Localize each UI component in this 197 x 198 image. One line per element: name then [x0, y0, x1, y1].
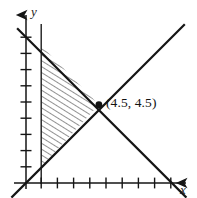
coordinate-plot — [0, 0, 197, 198]
x-axis — [14, 178, 186, 189]
y-axis-label: y — [31, 5, 37, 18]
math-graph-figure: y x (4.5, 4.5) — [0, 0, 197, 198]
intersection-point-marker — [96, 101, 103, 108]
shaded-feasible-region — [41, 45, 99, 166]
intersection-point-label: (4.5, 4.5) — [106, 96, 157, 110]
ascending-line — [11, 24, 184, 197]
x-axis-label: x — [180, 183, 186, 196]
